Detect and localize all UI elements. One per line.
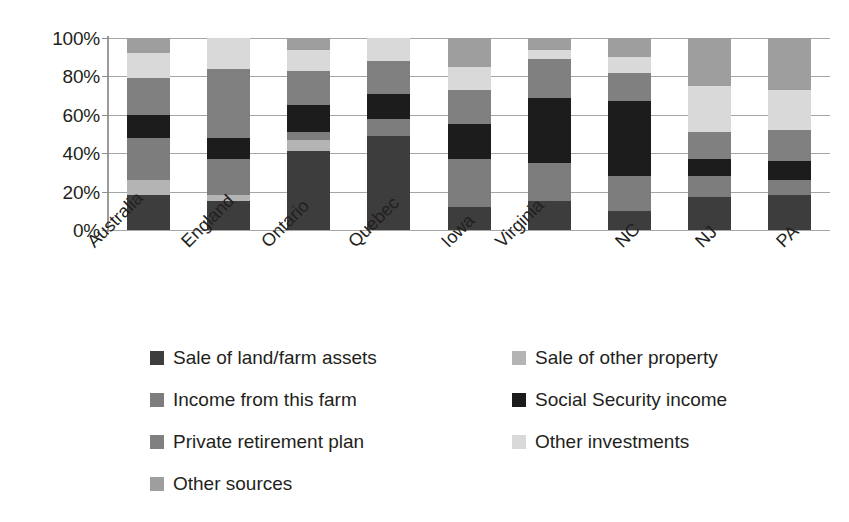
chart-legend: Sale of land/farm assetsSale of other pr… xyxy=(150,348,750,516)
legend-label: Other investments xyxy=(535,432,689,451)
legend-item[interactable]: Income from this farm xyxy=(150,390,357,409)
legend-item[interactable]: Other investments xyxy=(512,432,689,451)
bar-segment xyxy=(127,138,170,180)
y-axis-tick-label: 60% xyxy=(63,106,100,125)
bar-segment xyxy=(608,38,651,57)
bar-segment xyxy=(528,98,571,163)
stacked-bar-chart: 100%80%60%40%20%0% AustraliaEnglandOntar… xyxy=(0,0,849,522)
bar-iowa[interactable] xyxy=(448,38,491,230)
y-axis-tick-label: 40% xyxy=(63,144,100,163)
bar-segment xyxy=(127,115,170,138)
legend-swatch-icon xyxy=(150,351,164,365)
bar-segment xyxy=(127,53,170,78)
bar-segment xyxy=(448,67,491,90)
legend-label: Sale of other property xyxy=(535,348,718,367)
legend-row: Sale of land/farm assetsSale of other pr… xyxy=(150,348,750,390)
y-axis-tick-label: 20% xyxy=(63,183,100,202)
legend-label: Sale of land/farm assets xyxy=(173,348,377,367)
legend-row: Income from this farmSocial Security inc… xyxy=(150,390,750,432)
bar-segment xyxy=(528,38,571,50)
bar-segment xyxy=(367,119,410,136)
legend-item[interactable]: Private retirement plan xyxy=(150,432,364,451)
legend-swatch-icon xyxy=(150,435,164,449)
bar-segment xyxy=(768,180,811,195)
bar-segment xyxy=(688,159,731,176)
bar-segment xyxy=(768,38,811,90)
bar-segment xyxy=(127,38,170,53)
bar-segment xyxy=(287,105,330,132)
bar-segment xyxy=(207,159,250,195)
bar-segment xyxy=(367,61,410,94)
y-axis-labels: 100%80%60%40%20%0% xyxy=(0,38,100,230)
bar-segment xyxy=(207,138,250,159)
bar-segment xyxy=(608,73,651,102)
y-axis-tick-label: 100% xyxy=(52,29,100,48)
bar-segment xyxy=(608,101,651,176)
bar-segment xyxy=(287,71,330,106)
bar-pa[interactable] xyxy=(768,38,811,230)
bar-segment xyxy=(688,132,731,159)
bar-segment xyxy=(448,38,491,67)
bar-segment xyxy=(287,140,330,152)
legend-label: Income from this farm xyxy=(173,390,357,409)
legend-row: Other sources xyxy=(150,474,750,516)
legend-label: Social Security income xyxy=(535,390,727,409)
bar-segment xyxy=(287,38,330,50)
legend-swatch-icon xyxy=(512,351,526,365)
bar-segment xyxy=(608,57,651,72)
bar-segment xyxy=(528,50,571,60)
bar-segment xyxy=(528,59,571,97)
bar-segment xyxy=(768,130,811,161)
y-tick-100 xyxy=(102,38,109,39)
legend-item[interactable]: Sale of other property xyxy=(512,348,718,367)
x-axis-labels: AustraliaEnglandOntarioQuebecIowaVirgini… xyxy=(108,232,830,322)
bar-segment xyxy=(688,176,731,197)
bar-segment xyxy=(448,159,491,207)
y-tick-60 xyxy=(102,115,109,116)
bar-segment xyxy=(688,86,731,132)
bar-nc[interactable] xyxy=(608,38,651,230)
bar-segment xyxy=(367,38,410,61)
bar-segment xyxy=(608,176,651,211)
legend-item[interactable]: Social Security income xyxy=(512,390,727,409)
bar-segment xyxy=(448,124,491,159)
y-tick-20 xyxy=(102,192,109,193)
legend-row: Private retirement planOther investments xyxy=(150,432,750,474)
bar-segment xyxy=(448,90,491,125)
bar-segment xyxy=(367,94,410,119)
y-tick-80 xyxy=(102,76,109,77)
legend-swatch-icon xyxy=(150,393,164,407)
legend-swatch-icon xyxy=(512,435,526,449)
legend-swatch-icon xyxy=(150,477,164,491)
y-axis-tick-label: 80% xyxy=(63,67,100,86)
bar-segment xyxy=(287,132,330,140)
bar-segment xyxy=(207,38,250,69)
legend-label: Private retirement plan xyxy=(173,432,364,451)
bar-segment xyxy=(287,50,330,71)
bar-segment xyxy=(207,69,250,138)
legend-label: Other sources xyxy=(173,474,292,493)
bar-segment xyxy=(768,161,811,180)
bar-segment xyxy=(688,38,731,86)
legend-swatch-icon xyxy=(512,393,526,407)
bar-nj[interactable] xyxy=(688,38,731,230)
bar-segment xyxy=(127,78,170,114)
bar-segment xyxy=(768,90,811,130)
y-tick-40 xyxy=(102,153,109,154)
legend-item[interactable]: Other sources xyxy=(150,474,292,493)
legend-item[interactable]: Sale of land/farm assets xyxy=(150,348,377,367)
